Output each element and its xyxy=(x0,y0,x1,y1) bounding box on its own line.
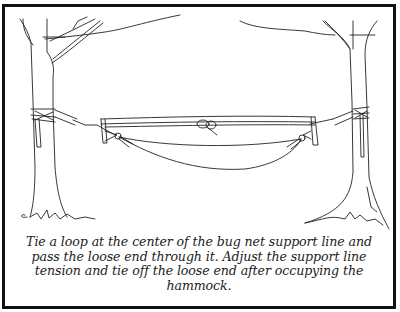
tree-straps xyxy=(31,107,369,122)
figure-frame: Tie a loop at the center of the bug net … xyxy=(2,4,396,309)
hammock-illustration xyxy=(5,7,393,235)
suspension-lines xyxy=(55,110,353,135)
caption-line-1: Tie a loop at the center of the bug net … xyxy=(9,235,389,250)
figure-caption: Tie a loop at the center of the bug net … xyxy=(9,235,389,293)
right-tree xyxy=(305,21,389,229)
spreader-bars xyxy=(101,116,318,145)
caption-line-3: tension and tie off the loose end after … xyxy=(9,264,389,279)
branch-lines xyxy=(43,15,375,41)
caption-line-4: hammock. xyxy=(9,279,389,294)
hammock-body xyxy=(115,133,305,169)
caption-line-2: pass the loose end through it. Adjust th… xyxy=(9,250,389,265)
